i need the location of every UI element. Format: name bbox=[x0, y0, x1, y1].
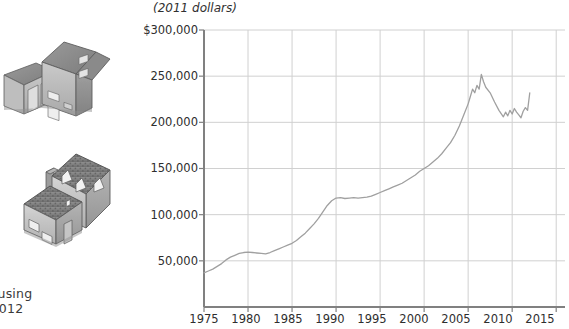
x-tick-label-1985: 1985 bbox=[273, 312, 302, 326]
y-tick-label-100000: 100,000 bbox=[150, 208, 198, 222]
y-axis-tick-labels: $300,000 250,000 200,000 150,000 100,000… bbox=[130, 0, 198, 329]
y-tick-label-300000: $300,000 bbox=[143, 23, 198, 37]
housing-price-data-line bbox=[204, 74, 530, 273]
plot-canvas bbox=[0, 0, 569, 329]
x-tick-label-1990: 1990 bbox=[315, 312, 344, 326]
gridlines bbox=[204, 30, 565, 307]
y-tick-label-250000: 250,000 bbox=[150, 69, 198, 83]
y-tick-label-50000: 50,000 bbox=[158, 254, 198, 268]
y-tick-label-200000: 200,000 bbox=[150, 115, 198, 129]
x-tick-label-2015: 2015 bbox=[525, 312, 554, 326]
x-tick-label-1975: 1975 bbox=[189, 312, 218, 326]
housing-price-line-chart: (2011 dollars) $300,000 250,000 200,000 … bbox=[0, 0, 569, 329]
y-tick-label-150000: 150,000 bbox=[150, 161, 198, 175]
x-tick-label-2005: 2005 bbox=[441, 312, 470, 326]
axis-ticks bbox=[199, 30, 556, 312]
x-tick-label-2000: 2000 bbox=[399, 312, 428, 326]
x-tick-label-2010: 2010 bbox=[483, 312, 512, 326]
x-tick-label-1980: 1980 bbox=[231, 312, 260, 326]
x-tick-label-1995: 1995 bbox=[357, 312, 386, 326]
